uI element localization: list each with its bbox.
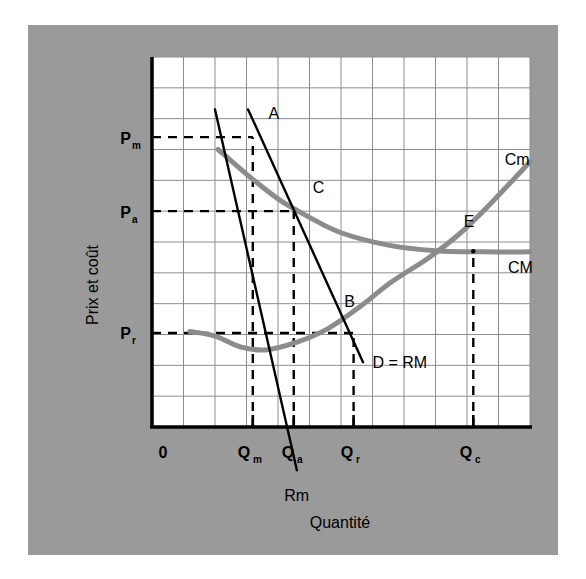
y-tick-labels: P m P a P r — [120, 130, 141, 346]
y-tick-sub-pa: a — [132, 214, 138, 225]
y-tick-sub-pm: m — [132, 140, 141, 151]
x-axis-title: Quantité — [310, 514, 371, 531]
annotation-A: A — [269, 105, 280, 122]
annotation-E: E — [464, 213, 475, 230]
x-tick-sub-qr: r — [356, 454, 360, 465]
x-tick-sub-qa: a — [297, 454, 303, 465]
y-tick-label-pa: P — [120, 204, 131, 221]
annotation-C: C — [313, 179, 325, 196]
point-markers — [471, 249, 475, 253]
annotation-Cm: Cm — [505, 151, 530, 168]
x-tick-label-qr: Q — [341, 444, 353, 461]
annotation-B: B — [344, 293, 355, 310]
x-tick-label-qm: Q — [238, 444, 250, 461]
annotation-Rm: Rm — [284, 487, 309, 504]
economics-chart: Prix et coût Quantité P m P a P r 0 Q m … — [0, 0, 586, 579]
x-tick-labels: 0 Q m Q a Q r Q c — [159, 444, 481, 465]
x-tick-label-qc: Q — [460, 444, 472, 461]
y-tick-label-pm: P — [120, 130, 131, 147]
marker-E — [471, 249, 475, 253]
x-tick-sub-qm: m — [253, 454, 262, 465]
y-tick-sub-pr: r — [132, 335, 136, 346]
x-tick-label-origin: 0 — [159, 444, 168, 461]
annotation-CM: CM — [508, 259, 533, 276]
y-tick-label-pr: P — [120, 325, 131, 342]
annotation-DRM: D = RM — [373, 354, 428, 371]
figure-container: Prix et coût Quantité P m P a P r 0 Q m … — [0, 0, 586, 579]
y-axis-title: Prix et coût — [84, 244, 101, 325]
x-tick-sub-qc: c — [475, 454, 481, 465]
x-tick-label-qa: Q — [282, 444, 294, 461]
